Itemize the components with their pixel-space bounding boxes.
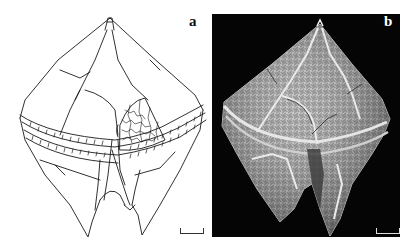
figure: a — [0, 0, 418, 251]
scale-bar-a — [180, 228, 204, 234]
theca-line-drawing — [0, 0, 210, 251]
epitheca-outline-right — [110, 18, 203, 110]
sulcus — [104, 140, 130, 205]
panel-b-sem-micrograph: b — [212, 14, 400, 237]
epitheca-outline — [20, 18, 110, 118]
panel-label-b: b — [384, 14, 392, 29]
reticulation-pattern — [122, 100, 158, 143]
panel-a-line-drawing: a — [0, 0, 210, 251]
panel-label-a: a — [189, 14, 197, 29]
scale-bar-b — [376, 228, 400, 234]
apical-horn — [105, 18, 114, 30]
theca-sem-image — [212, 14, 400, 237]
hypotheca-outline-left — [20, 118, 100, 237]
